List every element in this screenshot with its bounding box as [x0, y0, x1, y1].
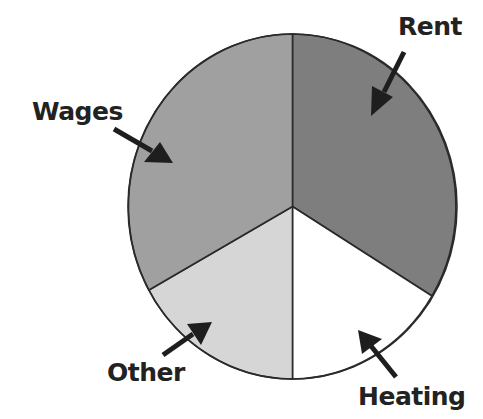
label-other: Other — [107, 360, 185, 385]
label-rent: Rent — [398, 14, 462, 39]
pie-chart — [0, 0, 483, 419]
label-heating: Heating — [358, 384, 465, 409]
label-wages: Wages — [32, 99, 123, 124]
